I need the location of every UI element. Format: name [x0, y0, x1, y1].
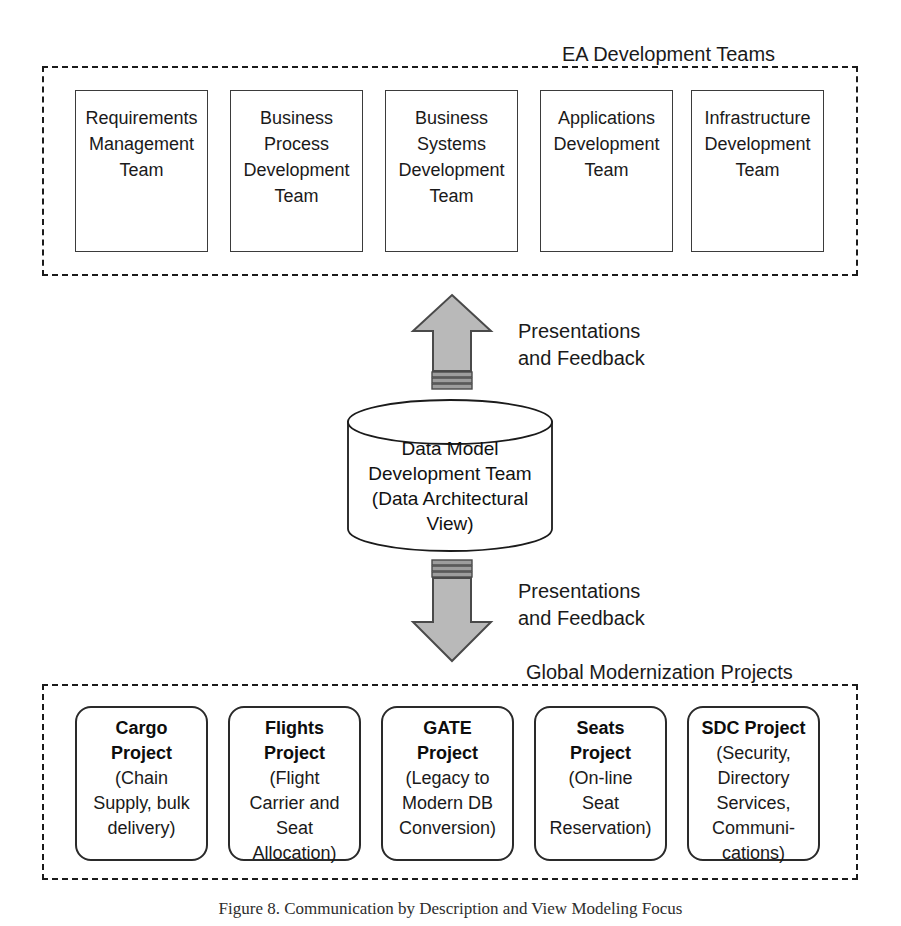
project-box-sdc[interactable]: SDC Project (Security, Directory Service… [687, 706, 820, 861]
project-box-gate[interactable]: GATE Project (Legacy to Modern DB Conver… [381, 706, 514, 861]
team-box-infrastructure-development[interactable]: Infrastructure Development Team [691, 90, 824, 252]
team-box-requirements-management[interactable]: Requirements Management Team [75, 90, 208, 252]
team-label: Business Systems Development Team [386, 105, 517, 209]
cylinder-label: Data Model Development Team (Data Archit… [345, 436, 555, 536]
project-title: Cargo Project [77, 716, 206, 766]
project-box-seats[interactable]: Seats Project (On-line Seat Reservation) [534, 706, 667, 861]
project-title: GATE Project [383, 716, 512, 766]
team-label: Infrastructure Development Team [692, 105, 823, 183]
upward-flow-label: Presentations and Feedback [518, 318, 645, 372]
team-box-business-systems-development[interactable]: Business Systems Development Team [385, 90, 518, 252]
project-description: (On-line Seat Reservation) [536, 766, 665, 841]
project-description: (Legacy to Modern DB Conversion) [383, 766, 512, 841]
downward-flow-label: Presentations and Feedback [518, 578, 645, 632]
project-description: (Flight Carrier and Seat Allocation) [230, 766, 359, 866]
figure-caption: Figure 8. Communication by Description a… [0, 898, 901, 920]
upward-arrow-icon [410, 293, 494, 393]
project-description: (Chain Supply, bulk delivery) [77, 766, 206, 841]
diagram-canvas: EA Development Teams Requirements Manage… [0, 0, 901, 926]
downward-arrow-icon [410, 558, 494, 664]
global-modernization-projects-label: Global Modernization Projects [522, 660, 797, 684]
team-label: Applications Development Team [541, 105, 672, 183]
team-label: Business Process Development Team [231, 105, 362, 209]
project-title: Flights Project [230, 716, 359, 766]
ea-development-teams-label: EA Development Teams [558, 42, 779, 66]
project-title: SDC Project [689, 716, 818, 741]
project-description: (Security, Directory Services, Communi- … [689, 741, 818, 866]
team-box-applications-development[interactable]: Applications Development Team [540, 90, 673, 252]
team-box-business-process-development[interactable]: Business Process Development Team [230, 90, 363, 252]
project-box-flights[interactable]: Flights Project (Flight Carrier and Seat… [228, 706, 361, 861]
project-title: Seats Project [536, 716, 665, 766]
team-label: Requirements Management Team [76, 105, 207, 183]
project-box-cargo[interactable]: Cargo Project (Chain Supply, bulk delive… [75, 706, 208, 861]
data-model-team-cylinder[interactable]: Data Model Development Team (Data Archit… [345, 398, 555, 553]
